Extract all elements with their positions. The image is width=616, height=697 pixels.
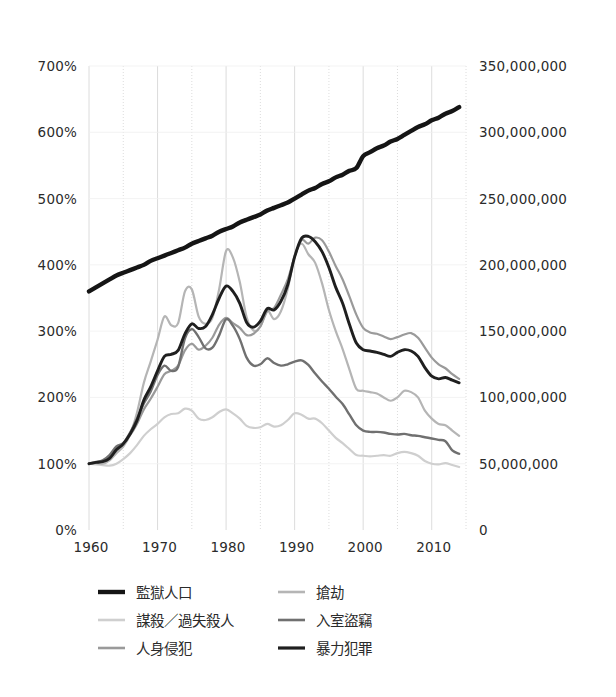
legend-item-label: 入室盜竊 [316, 613, 372, 629]
legend-item-label: 暴力犯罪 [316, 641, 372, 657]
legend-item-label: 監獄人口 [136, 585, 192, 601]
y-axis-right-tick-label: 150,000,000 [479, 323, 567, 339]
y-axis-left-tick-label: 500% [38, 191, 77, 207]
x-axis-tick-label: 2010 [416, 539, 451, 555]
legend-item-label: 謀殺／過失殺人 [136, 613, 234, 629]
y-axis-right-tick-label: 100,000,000 [479, 389, 567, 405]
y-axis-right-tick-label: 250,000,000 [479, 191, 567, 207]
x-axis-tick-label: 1990 [279, 539, 314, 555]
y-axis-left-tick-label: 600% [38, 124, 77, 140]
y-axis-right-tick-label: 50,000,000 [479, 456, 558, 472]
x-axis-tick-label: 1980 [211, 539, 246, 555]
y-axis-left-tick-label: 700% [38, 58, 77, 74]
y-axis-left-tick-label: 200% [38, 389, 77, 405]
y-axis-right-tick-label: 200,000,000 [479, 257, 567, 273]
x-axis-tick-label: 1970 [142, 539, 177, 555]
chart-container: 0%100%200%300%400%500%600%700% 050,000,0… [0, 0, 616, 697]
y-axis-left-tick-label: 300% [38, 323, 77, 339]
y-axis-right-tick-label: 300,000,000 [479, 124, 567, 140]
legend-item-label: 搶劫 [316, 584, 344, 601]
y-axis-left-tick-label: 400% [38, 257, 77, 273]
line-chart: 0%100%200%300%400%500%600%700% 050,000,0… [0, 0, 616, 697]
x-axis-tick-label: 2000 [348, 539, 383, 555]
chart-background [0, 0, 616, 697]
x-axis-tick-label: 1960 [73, 539, 108, 555]
legend-item-label: 人身侵犯 [136, 641, 193, 657]
y-axis-right-tick-label: 0 [479, 522, 488, 538]
y-axis-left-tick-label: 100% [38, 456, 77, 472]
y-axis-left-tick-label: 0% [55, 522, 77, 538]
y-axis-right-tick-label: 350,000,000 [479, 58, 567, 74]
